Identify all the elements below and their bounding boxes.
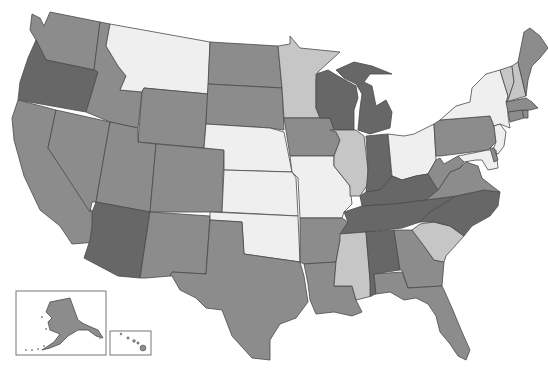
- map-canvas: [0, 0, 548, 390]
- insets-layer: [16, 291, 151, 355]
- state-nd[interactable]: [208, 42, 282, 88]
- state-wy[interactable]: [138, 88, 208, 148]
- hawaii-inset-frame: [110, 331, 151, 355]
- us-choropleth-map: [0, 0, 548, 390]
- state-ks[interactable]: [222, 170, 298, 216]
- state-oh[interactable]: [388, 124, 436, 180]
- state-az[interactable]: [84, 202, 150, 278]
- state-nm[interactable]: [140, 212, 210, 278]
- state-sd[interactable]: [206, 84, 284, 130]
- state-co[interactable]: [150, 144, 224, 212]
